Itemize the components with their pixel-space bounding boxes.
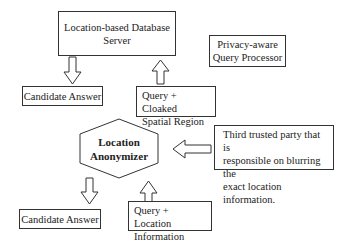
server-label-line2: Server	[103, 34, 130, 47]
query-cloaked-region-box: Query + Cloaked Spatial Region	[136, 86, 216, 117]
third-party-line3: exact location information.	[223, 180, 325, 206]
anonymizer-label-line1: Location	[79, 135, 159, 149]
arrow-down-icon	[64, 57, 81, 84]
processor-label-line2: Query Processor	[213, 51, 283, 64]
database-server-box: Location-based Database Server	[58, 11, 176, 56]
query-cloaked-line1: Query + Cloaked	[142, 89, 210, 115]
candidate-answer-bottom-box: Candidate Answer	[19, 209, 101, 229]
anonymizer-label: Location Anonymizer	[79, 135, 159, 163]
third-trusted-party-box: Third trusted party that is responsible …	[214, 125, 334, 170]
privacy-query-processor-box: Privacy-aware Query Processor	[209, 35, 286, 67]
candidate-answer-label: Candidate Answer	[24, 90, 101, 103]
processor-label-line1: Privacy-aware	[217, 38, 278, 51]
third-party-line2: responsible on blurring the	[223, 154, 325, 180]
query-location-info-box: Query + Location Information	[128, 201, 212, 231]
query-cloaked-line2: Spatial Region	[142, 115, 210, 128]
arrow-down-icon	[81, 178, 98, 204]
anonymizer-label-line2: Anonymizer	[79, 149, 159, 163]
candidate-answer-top-box: Candidate Answer	[22, 86, 103, 106]
third-party-line1: Third trusted party that is	[223, 128, 325, 154]
arrow-left-icon	[173, 140, 211, 158]
candidate-answer-label: Candidate Answer	[21, 213, 98, 226]
arrow-up-icon	[152, 60, 169, 84]
query-location-line2: Information	[134, 230, 206, 242]
query-location-line1: Query + Location	[134, 204, 206, 230]
server-label-line1: Location-based Database	[64, 21, 170, 34]
